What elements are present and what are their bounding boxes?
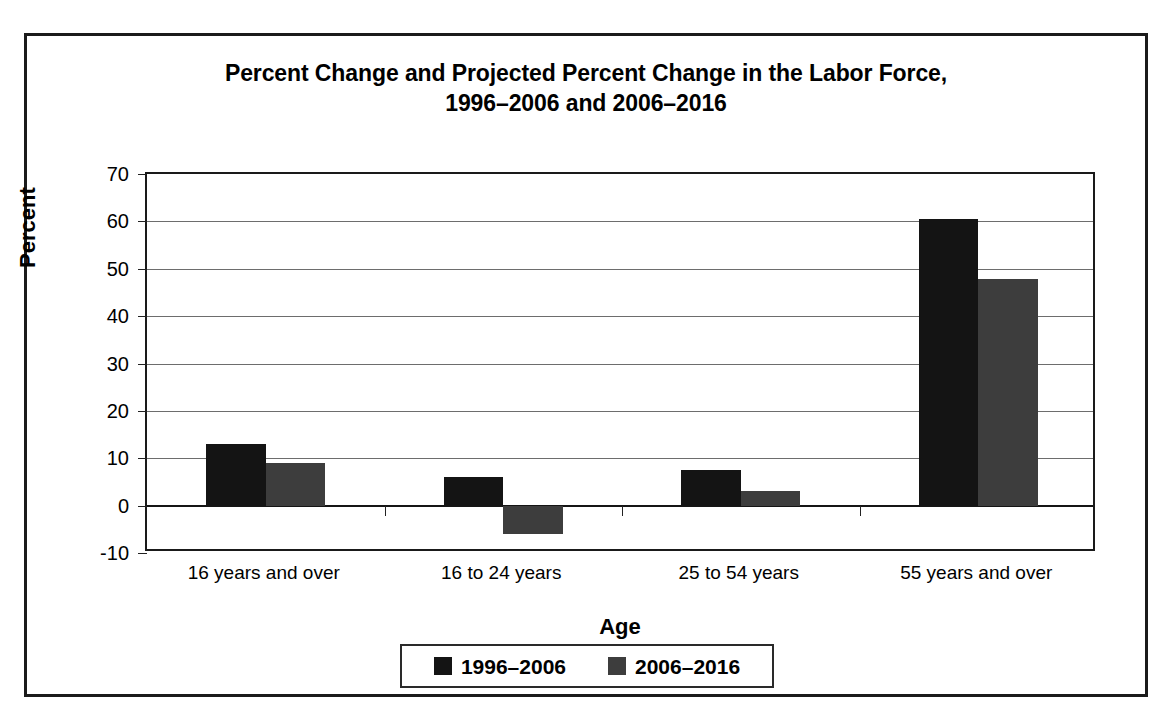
y-axis-tick-mark [138, 553, 147, 554]
y-axis-tick-label: 60 [75, 211, 129, 231]
legend-entry: 2006–2016 [608, 656, 740, 677]
x-axis-tick-mark [860, 506, 861, 516]
legend-swatch-icon [434, 657, 452, 675]
y-axis-tick-label: 30 [75, 354, 129, 374]
y-axis-tick-label: 50 [75, 259, 129, 279]
y-axis-tick-mark [138, 174, 147, 175]
legend-entry: 1996–2006 [434, 656, 566, 677]
x-axis-category-label: 16 to 24 years [383, 562, 621, 584]
y-axis-tick-label: 0 [75, 496, 129, 516]
bar [266, 463, 325, 506]
bar [681, 470, 740, 506]
y-axis-tick-mark [138, 506, 147, 507]
bar [503, 506, 562, 534]
y-axis-tick-mark [138, 364, 147, 365]
y-axis-tick-mark [138, 221, 147, 222]
x-axis-tick-mark [385, 506, 386, 516]
chart-legend: 1996–20062006–2016 [400, 644, 774, 688]
bar [919, 219, 978, 506]
legend-label: 2006–2016 [635, 656, 740, 677]
legend-label: 1996–2006 [461, 656, 566, 677]
x-axis-category-label: 55 years and over [858, 562, 1096, 584]
chart-figure-frame: Percent Change and Projected Percent Cha… [24, 33, 1148, 697]
y-axis-tick-label: -10 [75, 543, 129, 563]
bar [444, 477, 503, 505]
legend-swatch-icon [608, 657, 626, 675]
x-axis-category-label: 25 to 54 years [620, 562, 858, 584]
y-axis-title: Percent [15, 187, 41, 268]
y-axis-tick-mark [138, 269, 147, 270]
y-axis-tick-label: 10 [75, 448, 129, 468]
x-axis-tick-mark [622, 506, 623, 516]
y-axis-tick-mark [138, 458, 147, 459]
bar [206, 444, 265, 506]
x-axis-title: Age [145, 614, 1095, 640]
bar [978, 279, 1037, 505]
bar [741, 491, 800, 505]
chart-title: Percent Change and Projected Percent Cha… [27, 58, 1145, 118]
y-axis-tick-label: 70 [75, 164, 129, 184]
y-axis-tick-mark [138, 316, 147, 317]
x-axis-category-label: 16 years and over [145, 562, 383, 584]
y-axis-tick-label: 40 [75, 306, 129, 326]
chart-title-line-1: Percent Change and Projected Percent Cha… [27, 58, 1145, 88]
y-axis-tick-label: 20 [75, 401, 129, 421]
y-axis-tick-mark [138, 411, 147, 412]
chart-title-line-2: 1996–2006 and 2006–2016 [27, 88, 1145, 118]
plot-area: 706050403020100-10 [145, 172, 1095, 551]
